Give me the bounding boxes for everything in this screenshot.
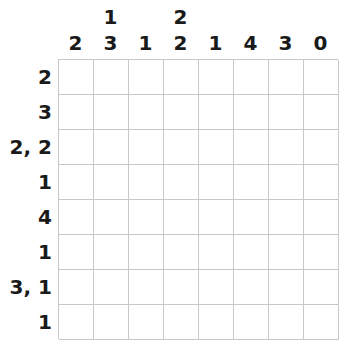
row-clue-5: 4 [0, 199, 52, 234]
row-clue-3: 2, 2 [0, 129, 52, 164]
grid-cell-r3-c5[interactable] [199, 130, 234, 165]
column-clue-number: 3 [279, 30, 293, 56]
grid-cell-r1-c6[interactable] [234, 60, 269, 95]
column-clue-2: 13 [93, 0, 128, 58]
row-clue-7: 3, 1 [0, 269, 52, 304]
grid-cell-r7-c7[interactable] [269, 270, 304, 305]
grid-cell-r4-c7[interactable] [269, 165, 304, 200]
grid-cell-r6-c8[interactable] [304, 235, 339, 270]
column-clue-number: 0 [314, 30, 328, 56]
grid-cell-r7-c2[interactable] [94, 270, 129, 305]
grid-cell-r8-c5[interactable] [199, 305, 234, 340]
grid-cell-r4-c2[interactable] [94, 165, 129, 200]
grid-cell-r8-c2[interactable] [94, 305, 129, 340]
grid-cell-r4-c8[interactable] [304, 165, 339, 200]
grid-cell-r7-c1[interactable] [59, 270, 94, 305]
grid-cell-r4-c3[interactable] [129, 165, 164, 200]
grid-cell-r7-c6[interactable] [234, 270, 269, 305]
grid-cell-r8-c3[interactable] [129, 305, 164, 340]
grid-cell-r5-c2[interactable] [94, 200, 129, 235]
grid-cell-r1-c8[interactable] [304, 60, 339, 95]
grid-cell-r7-c4[interactable] [164, 270, 199, 305]
grid-cell-r2-c4[interactable] [164, 95, 199, 130]
grid-cell-r3-c8[interactable] [304, 130, 339, 165]
column-clue-number: 2 [174, 30, 188, 56]
grid-cell-r3-c4[interactable] [164, 130, 199, 165]
grid-cell-r7-c8[interactable] [304, 270, 339, 305]
column-clue-number: 4 [244, 30, 258, 56]
grid-cell-r8-c1[interactable] [59, 305, 94, 340]
puzzle-grid [58, 59, 338, 339]
grid-cell-r2-c7[interactable] [269, 95, 304, 130]
row-clue-8: 1 [0, 304, 52, 339]
grid-cell-r5-c3[interactable] [129, 200, 164, 235]
column-clue-7: 3 [268, 0, 303, 58]
row-clues: 232, 21413, 11 [0, 59, 52, 339]
grid-cell-r1-c3[interactable] [129, 60, 164, 95]
grid-cell-r6-c7[interactable] [269, 235, 304, 270]
row-clue-4: 1 [0, 164, 52, 199]
column-clue-8: 0 [303, 0, 338, 58]
grid-cell-r5-c5[interactable] [199, 200, 234, 235]
grid-cell-r2-c5[interactable] [199, 95, 234, 130]
grid-cell-r4-c4[interactable] [164, 165, 199, 200]
grid-cell-r2-c6[interactable] [234, 95, 269, 130]
grid-cell-r2-c2[interactable] [94, 95, 129, 130]
grid-cell-r5-c6[interactable] [234, 200, 269, 235]
grid-cell-r5-c7[interactable] [269, 200, 304, 235]
grid-cell-r6-c4[interactable] [164, 235, 199, 270]
column-clue-number: 2 [69, 30, 83, 56]
grid-cell-r1-c2[interactable] [94, 60, 129, 95]
grid-cell-r4-c5[interactable] [199, 165, 234, 200]
grid-cell-r8-c7[interactable] [269, 305, 304, 340]
grid-cell-r2-c1[interactable] [59, 95, 94, 130]
grid-cell-r4-c6[interactable] [234, 165, 269, 200]
grid-cell-r6-c6[interactable] [234, 235, 269, 270]
grid-cell-r1-c7[interactable] [269, 60, 304, 95]
grid-cell-r3-c1[interactable] [59, 130, 94, 165]
column-clue-6: 4 [233, 0, 268, 58]
row-clue-6: 1 [0, 234, 52, 269]
column-clue-4: 22 [163, 0, 198, 58]
grid-cell-r5-c1[interactable] [59, 200, 94, 235]
column-clue-number: 3 [104, 30, 118, 56]
grid-cell-r8-c8[interactable] [304, 305, 339, 340]
grid-cell-r8-c6[interactable] [234, 305, 269, 340]
grid-cell-r8-c4[interactable] [164, 305, 199, 340]
column-clue-number: 1 [209, 30, 223, 56]
grid-cell-r5-c8[interactable] [304, 200, 339, 235]
grid-cell-r6-c2[interactable] [94, 235, 129, 270]
grid-cell-r1-c4[interactable] [164, 60, 199, 95]
column-clue-number: 1 [104, 4, 118, 30]
row-clue-2: 3 [0, 94, 52, 129]
grid-cell-r6-c3[interactable] [129, 235, 164, 270]
column-clue-3: 1 [128, 0, 163, 58]
grid-cell-r6-c1[interactable] [59, 235, 94, 270]
grid-cell-r4-c1[interactable] [59, 165, 94, 200]
grid-cell-r1-c1[interactable] [59, 60, 94, 95]
column-clue-1: 2 [58, 0, 93, 58]
grid-cell-r3-c6[interactable] [234, 130, 269, 165]
grid-cell-r2-c8[interactable] [304, 95, 339, 130]
grid-cell-r7-c3[interactable] [129, 270, 164, 305]
grid-cell-r7-c5[interactable] [199, 270, 234, 305]
grid-cell-r3-c7[interactable] [269, 130, 304, 165]
grid-cell-r2-c3[interactable] [129, 95, 164, 130]
grid-cell-r3-c3[interactable] [129, 130, 164, 165]
column-clue-number: 2 [174, 4, 188, 30]
column-clue-5: 1 [198, 0, 233, 58]
column-clue-number: 1 [139, 30, 153, 56]
column-clues: 2131221430 [58, 0, 338, 58]
grid-cell-r5-c4[interactable] [164, 200, 199, 235]
row-clue-1: 2 [0, 59, 52, 94]
grid-cell-r6-c5[interactable] [199, 235, 234, 270]
grid-cell-r1-c5[interactable] [199, 60, 234, 95]
grid-cell-r3-c2[interactable] [94, 130, 129, 165]
